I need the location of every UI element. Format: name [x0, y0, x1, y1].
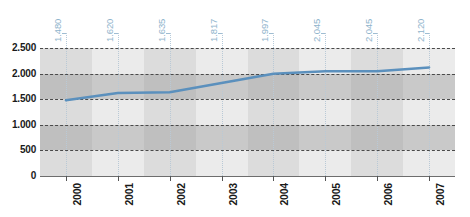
- x-axis-line: [40, 176, 455, 177]
- point-label-connector: [429, 33, 430, 48]
- point-label-connector: [377, 33, 378, 48]
- point-value-label: 2.045: [363, 19, 374, 42]
- x-axis-tick-label: 2003: [227, 183, 239, 206]
- x-axis-tick-label: 2005: [330, 183, 342, 206]
- point-value-label: 1.997: [259, 19, 270, 42]
- point-value-label: 1.480: [52, 19, 63, 42]
- x-axis-tick: [273, 176, 274, 181]
- y-axis-tick-label: 0: [0, 170, 36, 181]
- y-axis-tick-label: 2.500: [0, 42, 36, 53]
- x-axis-tick: [118, 176, 119, 181]
- point-value-label: 1.620: [104, 19, 115, 42]
- x-axis-tick-label: 2004: [278, 183, 290, 206]
- x-axis-tick-label: 2002: [175, 183, 187, 206]
- x-axis-tick: [325, 176, 326, 181]
- x-axis-tick-label: 2006: [382, 183, 394, 206]
- point-label-connector: [118, 33, 119, 48]
- y-axis-tick-label: 1.500: [0, 93, 36, 104]
- x-axis-tick: [429, 176, 430, 181]
- x-axis-tick: [66, 176, 67, 181]
- point-label-connector: [66, 33, 67, 48]
- point-value-label: 1.817: [208, 19, 219, 42]
- plot-area: [40, 48, 455, 176]
- series-line: [40, 48, 455, 176]
- point-label-tick: [269, 33, 273, 34]
- y-axis-tick-label: 2.000: [0, 68, 36, 79]
- point-value-label: 2.045: [311, 19, 322, 42]
- x-axis-tick-label: 2001: [123, 183, 135, 206]
- x-axis-tick-label: 2000: [71, 183, 83, 206]
- point-label-connector: [325, 33, 326, 48]
- point-value-label: 2.120: [415, 19, 426, 42]
- line-chart: 05001.0001.5002.0002.500 200020012002200…: [0, 0, 470, 217]
- point-label-connector: [170, 33, 171, 48]
- point-value-label: 1.635: [156, 19, 167, 42]
- point-label-connector: [273, 33, 274, 48]
- x-axis-tick-label: 2007: [434, 183, 446, 206]
- point-label-connector: [222, 33, 223, 48]
- y-axis-tick-label: 500: [0, 144, 36, 155]
- x-axis-tick: [170, 176, 171, 181]
- x-axis-tick: [222, 176, 223, 181]
- x-axis-tick: [377, 176, 378, 181]
- y-axis-tick-label: 1.000: [0, 119, 36, 130]
